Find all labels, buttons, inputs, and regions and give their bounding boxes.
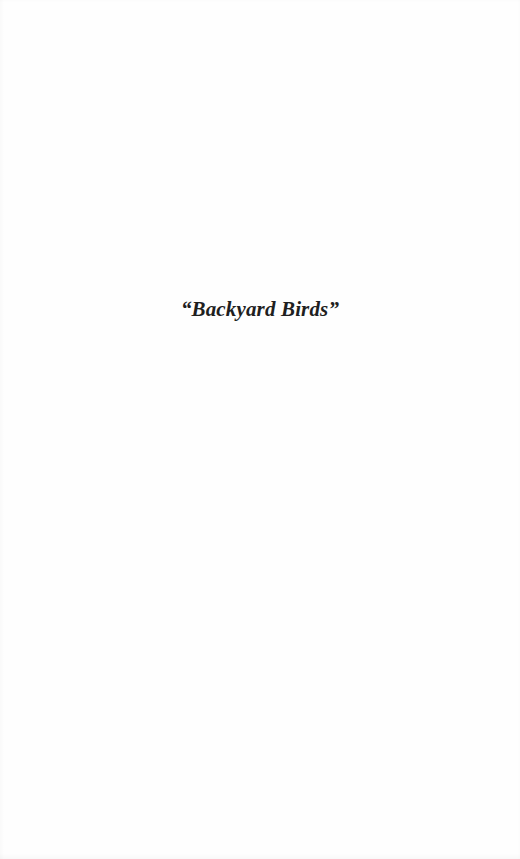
scan-edge-top <box>0 0 520 3</box>
caption-block: “Backyard Birds” <box>0 296 520 322</box>
caption-text: “Backyard Birds” <box>181 296 339 322</box>
scanned-page: “Backyard Birds” <box>0 0 520 859</box>
scan-edge-left <box>0 0 4 859</box>
scan-edge-bottom <box>0 853 520 859</box>
